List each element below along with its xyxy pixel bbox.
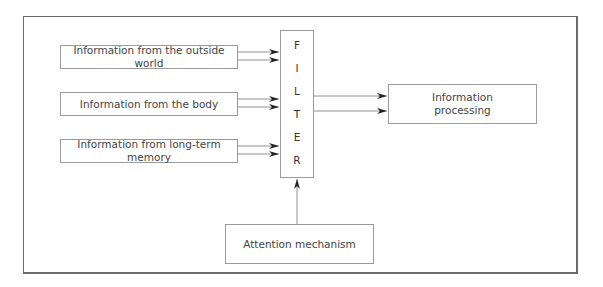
processing-label-line2: processing: [434, 104, 491, 117]
filter-letter-i: I: [281, 62, 313, 74]
input-label-long-term-memory: Information from long-term memory: [61, 138, 237, 164]
attention-mechanism-box: Attention mechanism: [225, 224, 374, 264]
input-label-body: Information from the body: [80, 98, 218, 111]
attention-mechanism-label: Attention mechanism: [243, 238, 356, 251]
filter-letter-f: F: [281, 39, 313, 51]
input-box-long-term-memory: Information from long-term memory: [60, 139, 238, 163]
filter-letter-r: R: [281, 154, 313, 166]
filter-letter-e: E: [281, 131, 313, 143]
processing-label-line1: Information: [432, 91, 493, 104]
information-processing-box: Information processing: [388, 84, 537, 124]
input-label-outside-world: Information from the outside world: [61, 44, 237, 70]
filter-box: F I L T E R: [280, 30, 314, 178]
filter-letter-l: L: [281, 85, 313, 97]
input-box-body: Information from the body: [60, 92, 238, 116]
input-box-outside-world: Information from the outside world: [60, 45, 238, 69]
filter-letter-t: T: [281, 108, 313, 120]
